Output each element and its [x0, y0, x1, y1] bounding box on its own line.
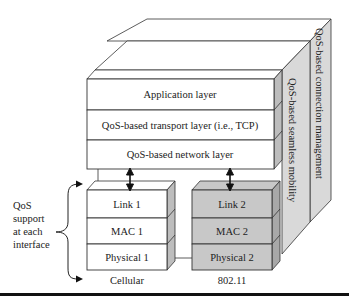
annotation-line-2: support	[13, 213, 45, 224]
wifi-label: 802.11	[218, 275, 247, 286]
physical-1-label: Physical 1	[105, 252, 148, 263]
connection-management-label: QoS-based connection management	[314, 28, 325, 179]
wifi-stack: Link 2 MAC 2 Physical 2 802.11	[192, 181, 280, 286]
cellular-stack: Link 1 MAC 1 Physical 1 Cellular	[87, 181, 175, 286]
network-layer-label: QoS-based network layer	[127, 149, 234, 160]
brace-top-arrow-icon	[76, 181, 83, 188]
curly-brace-icon	[56, 184, 80, 279]
application-layer-label: Application layer	[143, 89, 217, 100]
bottom-rule	[0, 293, 349, 296]
annotation-line-3: at each	[13, 226, 43, 237]
cellular-label: Cellular	[110, 275, 144, 286]
upper-stack: Application layer QoS-based transport la…	[87, 70, 282, 169]
link-2-label: Link 2	[218, 199, 246, 210]
transport-layer-label: QoS-based transport layer (i.e., TCP)	[102, 120, 259, 132]
link-1-label: Link 1	[113, 199, 141, 210]
seamless-mobility-label: QoS-based seamless mobility	[287, 78, 298, 203]
mac-1-label: MAC 1	[111, 226, 143, 237]
brace-bottom-arrow-icon	[76, 276, 83, 283]
annotation-line-4: interface	[13, 239, 50, 250]
mac-2-label: MAC 2	[216, 226, 248, 237]
physical-2-label: Physical 2	[210, 252, 253, 263]
qos-architecture-diagram: Application layer QoS-based transport la…	[0, 0, 349, 302]
annotation-line-1: QoS	[13, 200, 32, 211]
